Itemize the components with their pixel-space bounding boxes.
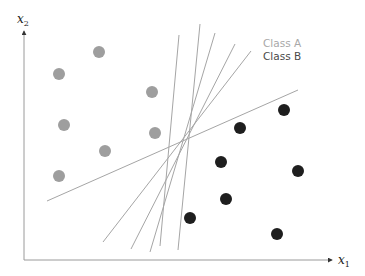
separating-line-5 xyxy=(103,51,251,242)
class-a-point xyxy=(53,170,65,182)
class-a-points xyxy=(53,46,161,182)
class-b-point xyxy=(278,104,290,116)
y-axis-label: x2 xyxy=(17,12,29,28)
class-b-point xyxy=(184,212,196,224)
y-axis-label-text: x xyxy=(17,12,24,26)
class-b-point xyxy=(234,122,246,134)
class-b-point xyxy=(220,193,232,205)
class-a-point xyxy=(53,68,65,80)
x-axis-label: x1 xyxy=(338,253,350,269)
legend-class-a: Class A xyxy=(263,37,301,49)
class-a-point xyxy=(99,145,111,157)
class-a-point xyxy=(149,127,161,139)
x-axis-label-text: x xyxy=(338,253,345,267)
x-axis-label-subscript: 1 xyxy=(345,260,350,269)
class-b-point xyxy=(271,228,283,240)
class-a-point xyxy=(93,46,105,58)
class-b-points xyxy=(184,104,304,240)
y-axis-label-subscript: 2 xyxy=(24,19,29,28)
separating-lines xyxy=(47,24,298,252)
class-b-point xyxy=(215,156,227,168)
separating-line-4 xyxy=(131,44,235,249)
class-a-point xyxy=(58,119,70,131)
class-b-point xyxy=(292,165,304,177)
diagram-canvas xyxy=(0,0,365,276)
legend-class-b: Class B xyxy=(263,50,301,62)
separating-line-3 xyxy=(150,33,215,252)
separating-line-1 xyxy=(160,35,179,246)
class-a-point xyxy=(146,86,158,98)
